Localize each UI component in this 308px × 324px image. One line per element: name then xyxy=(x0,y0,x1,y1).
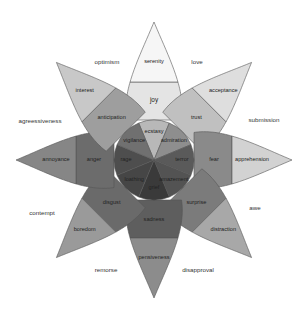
emotion-label: serenity xyxy=(144,58,164,64)
emotion-label: surprise xyxy=(186,199,206,205)
emotion-label: acceptance xyxy=(209,87,238,93)
emotion-label: admiration xyxy=(161,137,187,143)
emotion-label: anticipation xyxy=(97,114,125,120)
emotion-label: loathing xyxy=(124,176,144,182)
emotion-label: interest xyxy=(76,87,95,93)
dyad-label: submission xyxy=(249,116,281,123)
emotion-label: sadness xyxy=(144,216,165,222)
emotion-label: distraction xyxy=(211,226,237,232)
dyad-label: agreessiveness xyxy=(19,117,62,124)
dyad-label: awe xyxy=(249,204,261,211)
emotion-label: joy xyxy=(149,96,159,104)
dyad-label: contempt xyxy=(29,209,55,216)
emotion-label: ecstasy xyxy=(145,128,164,134)
emotion-label: apprehension xyxy=(235,156,269,162)
emotion-label: disgust xyxy=(103,199,121,205)
dyad-label: optimism xyxy=(95,58,120,65)
segment-pensiveness xyxy=(130,238,178,298)
dyad-label: love xyxy=(191,58,203,65)
emotion-label: boredom xyxy=(74,226,96,232)
emotion-label: rage xyxy=(120,156,131,162)
emotion-label: trust xyxy=(191,114,202,120)
emotion-label: amazement xyxy=(159,176,189,182)
segment-serenity xyxy=(130,22,178,82)
dyad-label: disapproval xyxy=(182,266,214,273)
emotion-wheel: ecstasyjoyserenityadmirationtrustaccepta… xyxy=(0,0,308,324)
emotion-label: anger xyxy=(87,156,101,162)
dyad-label: remorse xyxy=(95,266,118,273)
emotion-label: pensiveness xyxy=(138,254,169,260)
emotion-label: vigilance xyxy=(123,137,145,143)
emotion-label: annoyance xyxy=(42,156,69,162)
emotion-label: terror xyxy=(175,156,189,162)
emotion-label: grief xyxy=(149,184,160,190)
emotion-label: fear xyxy=(209,156,219,162)
